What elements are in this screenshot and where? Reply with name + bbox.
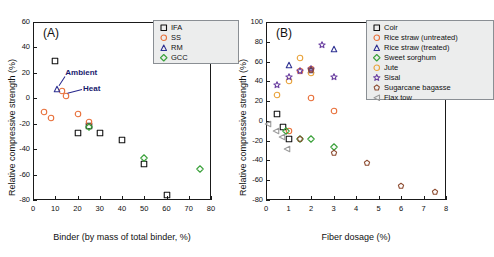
data-point [296,68,304,76]
legend-item-coir[interactable]: Coir [370,23,490,33]
data-point [307,67,315,75]
legend-label: GCC [171,53,188,63]
y-tick [33,124,37,125]
square-icon [118,136,126,144]
legend-marker [157,33,171,43]
circle-icon [47,114,55,122]
x-tick [211,196,212,200]
diamond-icon [141,154,149,162]
legend-item-rice-straw-treated[interactable]: Rice straw (treated) [370,43,490,53]
star-icon [296,68,304,76]
y-tick [33,200,37,201]
diamond-icon [196,166,204,174]
legend-item-ifa[interactable]: IFA [157,23,235,33]
y-tick [33,73,37,74]
y-tick-label: 40 [9,42,30,51]
star-icon [330,74,338,82]
legend-label: Coir [384,23,398,33]
diamond-icon [307,135,315,143]
data-point [285,135,293,143]
square-icon [160,24,168,32]
y-axis-label: Relative compressive strength (%) [7,59,17,196]
annotation-ambient: Ambient [65,68,97,77]
legend-item-jute[interactable]: Jute [370,63,490,73]
x-tick [78,196,79,200]
x-tick-label: 50 [132,204,156,213]
data-point [284,145,292,153]
x-tick-label: 70 [177,204,201,213]
x-tick-label: 2 [299,204,323,213]
square-icon [74,130,82,138]
x-tick [334,196,335,200]
x-tick [379,196,380,200]
star-icon [274,82,282,90]
panel-label-b: (B) [276,26,292,40]
triangle-icon [54,86,62,94]
legend-item-sugarcane-bagasse[interactable]: Sugarcane bagasse [370,83,490,93]
x-tick-label: 1 [277,204,301,213]
legend-marker [370,33,384,43]
x-tick-label: 5 [367,204,391,213]
data-point [330,149,338,157]
data-point [52,58,60,66]
square-icon [96,130,104,138]
legend-item-ss[interactable]: SS [157,33,235,43]
legend-label: IFA [171,23,182,33]
data-point [285,61,293,69]
legend-label: RM [171,43,183,53]
y-tick [266,101,270,102]
x-tick-label: 0 [254,204,278,213]
y-tick-label: 60 [9,17,30,26]
legend-item-rm[interactable]: RM [157,43,235,53]
x-tick-label: 7 [412,204,436,213]
legend-label: Rice straw (untreated) [384,33,458,43]
x-tick-label: 20 [66,204,90,213]
data-point [431,188,439,196]
annotation-heat: Heat [83,84,100,93]
data-point [278,133,286,141]
triangle-icon [373,44,381,52]
circle-icon [373,64,381,72]
star-icon [285,74,293,82]
x-tick [55,196,56,200]
x-axis-label: Fiber dosage (%) [266,232,446,242]
y-tick-label: 100 [242,17,263,26]
legend-item-sisal[interactable]: Sisal [370,73,490,83]
data-point [141,154,149,162]
data-point [307,94,315,102]
data-point [319,41,327,49]
legend-item-gcc[interactable]: GCC [157,53,235,63]
data-point [274,91,282,99]
x-tick [311,196,312,200]
diamond-icon [373,54,381,62]
circle-icon [307,94,315,102]
data-point [96,130,104,138]
star-icon [319,41,327,49]
circle-icon [330,108,338,116]
triangle-left-icon [373,94,381,102]
y-tick [266,62,270,63]
y-tick [266,81,270,82]
legend-label: Rice straw (treated) [384,43,449,53]
y-tick-label: 80 [242,37,263,46]
diamond-icon [160,54,168,62]
x-tick [144,196,145,200]
pentagon-icon [296,135,304,143]
x-tick-label: 6 [389,204,413,213]
y-tick-label: -80 [242,195,263,204]
data-point [274,110,282,118]
data-point [330,74,338,82]
data-point [296,135,304,143]
circle-icon [296,54,304,62]
square-icon [274,110,282,118]
data-point [196,166,204,174]
y-tick [266,200,270,201]
x-tick [424,196,425,200]
legend-item-flax-tow[interactable]: Flax tow [370,93,490,103]
legend-item-rice-straw-untreated[interactable]: Rice straw (untreated) [370,33,490,43]
pentagon-icon [330,149,338,157]
legend-label: SS [171,33,181,43]
legend-item-sweet-sorghum[interactable]: Sweet sorghum [370,53,490,63]
triangle-left-icon [265,120,273,128]
